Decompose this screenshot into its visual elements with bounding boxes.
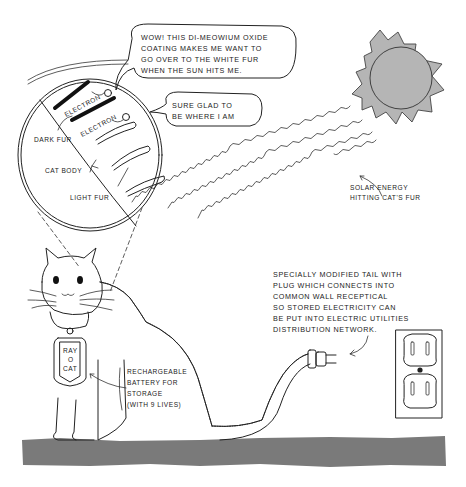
battery-label-line-1: RECHARGEABLE — [127, 368, 187, 375]
bubble-top-line-3: GO OVER TO THE WHITE FUR — [141, 55, 259, 64]
tail-label-line-2: PLUG WHICH CONNECTS INTO — [273, 281, 395, 290]
tail-label-line-4: SO STORED ELECTRICITY CAN — [273, 303, 396, 312]
tag-cat: CAT — [63, 365, 77, 372]
solar-label-line-2: HITTING CAT'S FUR — [350, 194, 420, 201]
ground — [22, 436, 446, 467]
bubble-top-line-1: WOW! THIS DI-MEOWIUM OXIDE — [141, 33, 268, 42]
bubble-second-line-2: BE WHERE I AM — [172, 112, 235, 121]
light-fur-label: LIGHT FUR — [70, 194, 109, 201]
battery-arrow — [90, 374, 126, 388]
dark-fur-label: DARK FUR — [34, 136, 72, 143]
cat-body-label: CAT BODY — [45, 167, 82, 174]
battery-bracket — [119, 368, 122, 410]
solar-label-line-1: SOLAR ENERGY — [350, 184, 408, 191]
tail-label-line-1: SPECIALLY MODIFIED TAIL WITH — [273, 270, 402, 279]
tag-ray: RAY — [63, 347, 78, 354]
magnified-fur-view — [18, 79, 165, 292]
wall-outlet-icon — [396, 330, 442, 418]
plug-arrow — [350, 336, 368, 356]
tag-o: O — [68, 356, 74, 363]
tail-label-line-6: DISTRIBUTION NETWORK. — [273, 325, 377, 334]
bubble-second-line-1: SURE GLAD TO — [172, 101, 232, 110]
tail-label-line-3: COMMON WALL RECEPTICAL — [273, 292, 388, 301]
bubble-top-line-4: WHEN THE SUN HITS ME. — [141, 66, 242, 75]
tail-label-line-5: BE PUT INTO ELECTRIC UTILITIES — [273, 314, 409, 323]
electron-label-2: ELECTRON — [79, 113, 118, 138]
cartoon-diagram: ELECTRON ELECTRON DARK FUR CAT BODY LIGH… — [0, 0, 466, 487]
sun-icon — [352, 30, 444, 124]
battery-label-line-3: STORAGE — [127, 390, 163, 397]
battery-label-line-4: (WITH 9 LIVES) — [127, 401, 181, 409]
battery-label-line-2: BATTERY FOR — [127, 379, 178, 386]
bubble-top-line-2: COATING MAKES ME WANT TO — [141, 44, 262, 53]
